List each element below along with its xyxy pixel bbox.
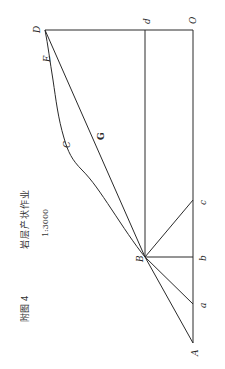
label-E: E (42, 55, 52, 63)
line-B-D-straight (45, 30, 145, 257)
figure-number: 附图 4 (18, 295, 31, 322)
label-O: O (188, 16, 198, 24)
figure-title: 岩层产状作业 (18, 189, 31, 249)
label-B: B (135, 255, 145, 263)
figure-scale: 1:3000 (41, 209, 50, 237)
label-a: a (198, 303, 208, 308)
line-A-B (145, 257, 193, 343)
label-d: d (142, 18, 152, 24)
line-B-a (145, 257, 193, 304)
geologic-construction-diagram: D E d O C G c B b a A (0, 0, 225, 369)
line-B-c (145, 200, 193, 257)
label-A: A (190, 349, 200, 357)
label-D: D (32, 26, 42, 34)
label-C: C (62, 141, 72, 148)
label-b: b (198, 255, 208, 261)
label-G: G (96, 132, 106, 140)
label-c: c (198, 200, 208, 205)
